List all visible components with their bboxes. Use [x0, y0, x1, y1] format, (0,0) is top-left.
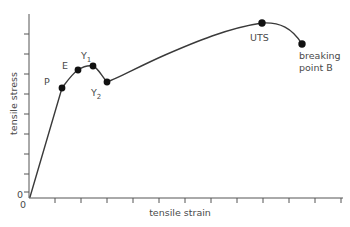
- label-breaking-point: breakingpoint B: [299, 50, 341, 73]
- point-uts: [258, 19, 265, 26]
- point-p: [59, 85, 66, 92]
- point-y2: [104, 79, 111, 86]
- label-uts: UTS: [250, 32, 269, 43]
- stress-strain-diagram: tensile stress tensile strain 0 0 P E Y1…: [0, 0, 350, 227]
- y-axis-ticks: [24, 34, 29, 192]
- y-axis-label: tensile stress: [8, 68, 19, 140]
- label-breaking-line1: breaking: [299, 50, 341, 61]
- label-e: E: [62, 60, 68, 71]
- label-y2: Y2: [91, 87, 101, 98]
- plot-area: [0, 0, 350, 227]
- label-y1-subscript: 1: [87, 56, 91, 64]
- label-y1: Y1: [81, 50, 91, 61]
- x-origin-zero-label: 0: [20, 199, 26, 210]
- x-axis-ticks: [55, 198, 341, 203]
- x-axis-label: tensile strain: [120, 207, 240, 218]
- point-e: [75, 67, 82, 74]
- stress-strain-curve: [30, 23, 302, 197]
- label-y2-subscript: 2: [97, 93, 101, 101]
- label-breaking-line2: point B: [299, 62, 333, 73]
- point-breaking: [298, 40, 305, 47]
- label-p: P: [44, 76, 50, 87]
